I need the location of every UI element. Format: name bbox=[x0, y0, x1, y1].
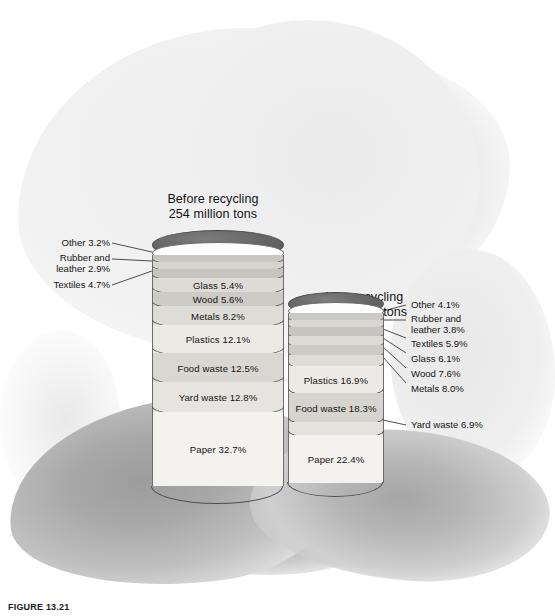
after-callout-wood: Wood 7.6% bbox=[411, 368, 460, 379]
before-callout-rubber-line2: leather 2.9% bbox=[0, 263, 110, 274]
after-band-metals bbox=[288, 355, 384, 366]
after-callout-rubber-leather: Rubber and leather 3.8% bbox=[411, 313, 465, 336]
before-chart-title: Before recycling 254 million tons bbox=[118, 192, 308, 222]
after-band-plastics: Plastics 16.9% bbox=[288, 366, 384, 393]
after-band-paper: Paper 22.4% bbox=[288, 435, 384, 483]
before-title-line2: 254 million tons bbox=[118, 207, 308, 222]
after-callout-rubber-line1: Rubber and bbox=[411, 313, 465, 324]
before-callout-other: Other 3.2% bbox=[0, 237, 110, 248]
before-callout-textiles: Textiles 4.7% bbox=[0, 279, 110, 290]
before-band-glass: Glass 5.4% bbox=[152, 278, 284, 292]
after-callout-textiles: Textiles 5.9% bbox=[411, 338, 468, 349]
after-band-textiles bbox=[288, 327, 384, 336]
after-band-glass bbox=[288, 336, 384, 345]
before-band-yard-waste: Yard waste 12.8% bbox=[152, 382, 284, 412]
before-band-plastics: Plastics 12.1% bbox=[152, 325, 284, 353]
before-band-food-waste-label: Food waste 12.5% bbox=[153, 362, 283, 373]
before-band-other bbox=[152, 255, 284, 262]
before-band-metals: Metals 8.2% bbox=[152, 306, 284, 325]
after-band-wood bbox=[288, 345, 384, 355]
before-callout-rubber-line1: Rubber and bbox=[0, 252, 110, 263]
after-band-food-waste: Food waste 18.3% bbox=[288, 393, 384, 422]
before-band-food-waste: Food waste 12.5% bbox=[152, 353, 284, 382]
after-band-other bbox=[288, 313, 384, 320]
after-band-plastics-label: Plastics 16.9% bbox=[289, 374, 383, 385]
after-callout-glass: Glass 6.1% bbox=[411, 353, 460, 364]
before-band-yard-waste-label: Yard waste 12.8% bbox=[153, 392, 283, 403]
before-band-rubber-leather bbox=[152, 262, 284, 269]
before-band-plastics-label: Plastics 12.1% bbox=[153, 334, 283, 345]
after-callout-rubber-line2: leather 3.8% bbox=[411, 324, 465, 335]
before-band-textiles bbox=[152, 269, 284, 278]
before-band-wood: Wood 5.6% bbox=[152, 292, 284, 306]
after-band-yard-waste bbox=[288, 422, 384, 435]
before-callout-rubber-leather: Rubber and leather 2.9% bbox=[0, 252, 110, 275]
before-band-paper-label: Paper 32.7% bbox=[153, 444, 283, 455]
after-callout-metals: Metals 8.0% bbox=[411, 383, 464, 394]
after-callout-other: Other 4.1% bbox=[411, 299, 460, 310]
after-callout-yard-waste: Yard waste 6.9% bbox=[411, 419, 483, 430]
after-band-food-waste-label: Food waste 18.3% bbox=[289, 402, 383, 413]
after-band-paper-label: Paper 22.4% bbox=[289, 454, 383, 465]
before-title-line1: Before recycling bbox=[118, 192, 308, 207]
after-band-rubber-leather bbox=[288, 320, 384, 327]
figure-caption: FIGURE 13.21 bbox=[8, 602, 69, 612]
before-band-paper: Paper 32.7% bbox=[152, 412, 284, 486]
